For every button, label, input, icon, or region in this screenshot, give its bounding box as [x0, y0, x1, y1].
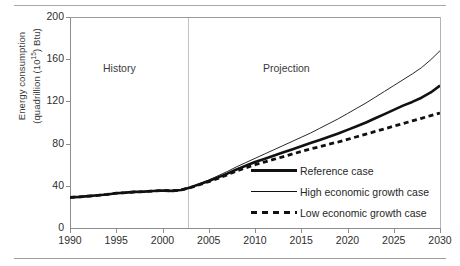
legend-item-reference-case: Reference case	[251, 160, 451, 181]
legend-label-low-growth-case: Low economic growth case	[300, 207, 427, 219]
x-tick-label: 2000	[141, 234, 185, 246]
legend-label-reference-case: Reference case	[300, 165, 374, 177]
legend-item-low-growth-case: Low economic growth case	[251, 202, 451, 223]
x-tick-mark	[440, 229, 441, 233]
chart-legend: Reference case High economic growth case…	[251, 160, 451, 223]
x-tick-mark	[255, 229, 256, 233]
legend-item-high-growth-case: High economic growth case	[251, 181, 451, 202]
x-tick-label: 2015	[279, 234, 323, 246]
x-tick-mark	[116, 229, 117, 233]
x-tick-mark	[301, 229, 302, 233]
legend-label-high-growth-case: High economic growth case	[300, 186, 429, 198]
x-tick-mark	[348, 229, 349, 233]
x-tick-label: 2025	[372, 234, 416, 246]
x-tick-mark	[163, 229, 164, 233]
x-tick-label: 2005	[187, 234, 231, 246]
x-tick-label: 1995	[94, 234, 138, 246]
x-tick-label: 1990	[48, 234, 92, 246]
energy-consumption-chart: Energy consumption (quadrillion (1015) B…	[0, 0, 460, 266]
x-tick-mark	[209, 229, 210, 233]
x-tick-label: 2030	[418, 234, 460, 246]
x-tick-mark	[394, 229, 395, 233]
x-tick-mark	[70, 229, 71, 233]
legend-swatch-reference-case	[251, 165, 297, 177]
legend-swatch-high-growth-case	[251, 186, 297, 198]
x-tick-label: 2010	[233, 234, 277, 246]
x-tick-label: 2020	[326, 234, 370, 246]
legend-swatch-low-growth-case	[251, 207, 297, 219]
